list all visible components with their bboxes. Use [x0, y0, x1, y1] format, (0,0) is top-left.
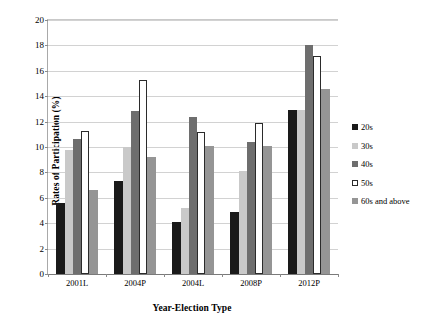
legend-item-label: 40s — [361, 160, 373, 169]
x-tick-label-2004P: 2004P — [106, 278, 164, 288]
y-tick-label: 16 — [35, 66, 44, 75]
bar-40s-2004L[interactable] — [189, 117, 197, 274]
x-tick-label-2004L: 2004L — [164, 278, 222, 288]
bar-50s-2012P[interactable] — [313, 56, 321, 274]
bar-20s-2012P[interactable] — [288, 110, 296, 274]
bar-30s-2004L[interactable] — [181, 208, 189, 274]
x-tick-mark — [106, 274, 107, 277]
bar-60s-and-above-2012P[interactable] — [321, 89, 329, 274]
bar-40s-2008P[interactable] — [247, 142, 255, 274]
x-tick-mark — [222, 274, 223, 277]
bar-50s-2001L[interactable] — [81, 131, 89, 275]
bar-40s-2004P[interactable] — [131, 111, 139, 274]
legend-item-40s[interactable]: 40s — [352, 155, 430, 174]
bar-50s-2004P[interactable] — [139, 80, 147, 274]
bar-40s-2012P[interactable] — [305, 45, 313, 274]
bar-60s-and-above-2004P[interactable] — [147, 157, 155, 274]
legend-swatch-icon — [352, 161, 358, 167]
gridline — [48, 274, 338, 275]
bar-group: 2008P — [222, 20, 280, 274]
bar-chart: Rates of Participation (%) 0246810121416… — [0, 0, 431, 326]
bar-groups: 2001L2004P2004L2008P2012P — [48, 20, 338, 274]
bar-30s-2012P[interactable] — [297, 110, 305, 274]
y-tick-label: 20 — [35, 16, 44, 25]
legend-swatch-icon — [352, 124, 358, 130]
bar-30s-2008P[interactable] — [239, 171, 247, 274]
legend-swatch-icon — [352, 143, 358, 149]
plot-area: 02468101214161820 2001L2004P2004L2008P20… — [47, 19, 338, 274]
y-tick-label: 10 — [35, 143, 44, 152]
legend-item-60s-and-above[interactable]: 60s and above — [352, 192, 430, 211]
legend-item-30s[interactable]: 30s — [352, 137, 430, 156]
bar-30s-2004P[interactable] — [123, 147, 131, 274]
x-tick-label-2001L: 2001L — [48, 278, 106, 288]
bar-60s-and-above-2004L[interactable] — [205, 146, 213, 274]
y-tick-label: 6 — [40, 193, 45, 202]
y-tick-label: 8 — [40, 168, 45, 177]
y-tick-label: 12 — [35, 117, 44, 126]
bar-group: 2001L — [48, 20, 106, 274]
y-tick-label: 4 — [40, 219, 45, 228]
x-tick-label-2012P: 2012P — [280, 278, 338, 288]
chart-legend: 20s30s40s50s60s and above — [352, 118, 430, 211]
legend-item-label: 30s — [361, 142, 373, 151]
x-axis-title: Year-Election Type — [47, 303, 337, 313]
legend-item-20s[interactable]: 20s — [352, 118, 430, 137]
bar-group: 2004P — [106, 20, 164, 274]
legend-item-label: 50s — [361, 179, 373, 188]
x-tick-mark — [338, 274, 339, 277]
y-tick-label: 0 — [40, 270, 45, 279]
bar-40s-2001L[interactable] — [73, 139, 81, 274]
legend-item-50s[interactable]: 50s — [352, 174, 430, 193]
bar-20s-2001L[interactable] — [56, 203, 64, 274]
bar-20s-2008P[interactable] — [230, 212, 238, 274]
bar-20s-2004P[interactable] — [114, 181, 122, 274]
x-tick-label-2008P: 2008P — [222, 278, 280, 288]
bar-30s-2001L[interactable] — [65, 150, 73, 274]
bar-50s-2004L[interactable] — [197, 132, 205, 274]
legend-item-label: 20s — [361, 123, 373, 132]
bar-group: 2012P — [280, 20, 338, 274]
y-tick-label: 2 — [40, 244, 45, 253]
bar-60s-and-above-2008P[interactable] — [263, 146, 271, 274]
bar-50s-2008P[interactable] — [255, 123, 263, 274]
y-tick-label: 14 — [35, 92, 44, 101]
x-tick-mark — [280, 274, 281, 277]
bar-60s-and-above-2001L[interactable] — [89, 190, 97, 274]
legend-swatch-icon — [352, 180, 358, 186]
x-tick-mark — [48, 274, 49, 277]
bar-group: 2004L — [164, 20, 222, 274]
bar-20s-2004L[interactable] — [172, 222, 180, 274]
legend-swatch-icon — [352, 198, 358, 204]
legend-item-label: 60s and above — [361, 197, 410, 206]
y-tick-label: 18 — [35, 41, 44, 50]
x-tick-mark — [164, 274, 165, 277]
